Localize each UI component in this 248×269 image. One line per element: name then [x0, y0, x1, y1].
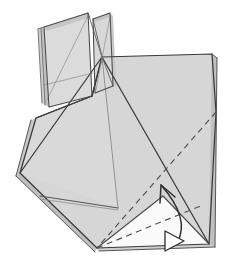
origami-diagram: Origami folding step diagram Perspective… — [0, 0, 248, 269]
origami-illustration — [0, 0, 248, 269]
